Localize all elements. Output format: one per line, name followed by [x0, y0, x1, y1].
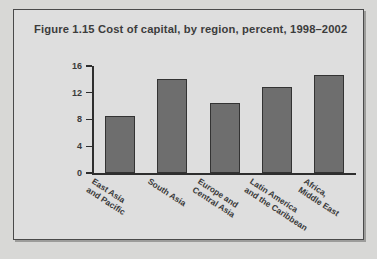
x-axis-label: Europe andCentral Asia [191, 177, 242, 220]
bar [262, 87, 292, 173]
figure-title: Figure 1.15 Cost of capital, by region, … [34, 23, 347, 35]
y-tick-0: 0 [86, 172, 92, 173]
y-tick-12: 12 [86, 92, 92, 93]
y-tick-label-16: 16 [72, 61, 82, 71]
y-tick-16: 16 [86, 65, 92, 66]
x-axis-label: East Asiaand Pacific [85, 177, 133, 217]
bar [157, 79, 187, 173]
y-tick-label-4: 4 [77, 141, 82, 151]
x-axis-label-line: South Asia [146, 177, 188, 209]
x-axis-labels: East Asiaand PacificSouth AsiaEurope and… [75, 177, 365, 247]
bar [314, 75, 344, 173]
y-tick-8: 8 [86, 119, 92, 120]
x-axis-label: South Asia [146, 177, 188, 209]
bar-series [94, 66, 356, 173]
bar [105, 116, 135, 174]
y-tick-4: 4 [86, 146, 92, 147]
y-tick-label-12: 12 [72, 88, 82, 98]
x-axis-line [92, 173, 356, 175]
plot-area: 0481216 [75, 57, 355, 175]
figure-frame: Figure 1.15 Cost of capital, by region, … [13, 9, 364, 240]
y-tick-label-8: 8 [77, 114, 82, 124]
bar [210, 103, 240, 173]
